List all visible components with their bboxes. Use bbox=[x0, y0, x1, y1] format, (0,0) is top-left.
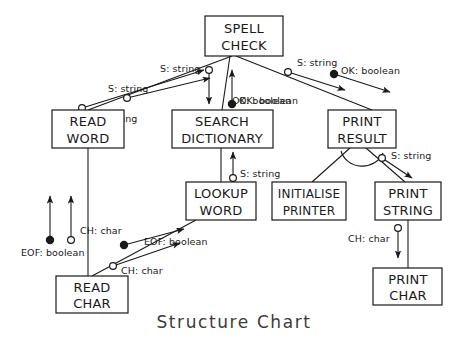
couple-label-c9: EOF: boolean bbox=[21, 247, 85, 258]
couple-label-c4-alt: OK: boolean bbox=[232, 95, 291, 106]
couple-marker-filled-c9 bbox=[46, 236, 53, 243]
module-search-dictionary[interactable]: SEARCH DICTIONARY bbox=[172, 110, 273, 148]
module-spell-check[interactable]: SPELL CHECK bbox=[205, 16, 283, 56]
module-label-print-result-line1: PRINT bbox=[342, 114, 381, 129]
couple-label-c3: S: string bbox=[160, 63, 200, 74]
couple-label-c11: EOF: boolean bbox=[144, 236, 208, 247]
couple-marker-hollow-c3 bbox=[206, 67, 213, 74]
couple-c8: S: string bbox=[379, 150, 432, 178]
module-print-char[interactable]: PRINT CHAR bbox=[373, 268, 442, 305]
module-label-spell-check-line1: SPELL bbox=[224, 21, 264, 36]
module-read-word[interactable]: READ WORD bbox=[52, 110, 124, 148]
module-lookup-word[interactable]: LOOKUP WORD bbox=[186, 182, 256, 220]
structure-chart-canvas: S: string S: string S: string OK: boolea… bbox=[0, 0, 468, 344]
couple-marker-filled-c6 bbox=[330, 70, 337, 77]
module-label-lookup-word-line1: LOOKUP bbox=[194, 186, 248, 201]
chart-title: Structure Chart bbox=[156, 312, 311, 332]
couple-marker-hollow-c12 bbox=[110, 263, 117, 270]
couple-label-c8: S: string bbox=[391, 150, 431, 161]
module-label-lookup-word-line2: WORD bbox=[200, 203, 243, 218]
module-label-initialise-printer-line2: PRINTER bbox=[283, 204, 336, 218]
couple-marker-hollow-c10 bbox=[68, 237, 75, 244]
couple-marker-hollow-c5 bbox=[285, 69, 292, 76]
module-label-print-result-line2: RESULT bbox=[337, 131, 387, 146]
couple-c6: OK: boolean bbox=[330, 65, 400, 92]
module-label-read-word-line2: WORD bbox=[67, 131, 110, 146]
couple-marker-hollow-c7 bbox=[230, 175, 237, 182]
couple-label-c10: CH: char bbox=[80, 225, 122, 236]
couple-marker-filled-c11 bbox=[120, 241, 127, 248]
module-initialise-printer[interactable]: INITIALISE PRINTER bbox=[272, 182, 346, 220]
structure-chart-svg: S: string S: string S: string OK: boolea… bbox=[0, 0, 468, 344]
couple-marker-hollow-c13 bbox=[395, 225, 402, 232]
module-print-result[interactable]: PRINT RESULT bbox=[328, 110, 396, 148]
module-label-print-char-line2: CHAR bbox=[389, 288, 427, 303]
couple-c9: EOF: boolean bbox=[21, 196, 85, 258]
couple-c2: S: string bbox=[108, 78, 210, 101]
couple-label-c2: S: string bbox=[108, 83, 148, 94]
module-label-print-char-line1: PRINT bbox=[388, 272, 427, 287]
couple-marker-hollow-c2 bbox=[124, 95, 131, 102]
module-label-read-char-line1: READ bbox=[74, 280, 111, 295]
couple-c10: CH: char bbox=[68, 196, 122, 243]
couple-c11: EOF: boolean bbox=[120, 229, 207, 249]
couple-c4-secondary-label: OK: boolean bbox=[232, 95, 291, 106]
couple-label-c6: OK: boolean bbox=[341, 65, 400, 76]
couple-c7: S: string bbox=[230, 152, 281, 181]
couple-label-c12: CH: char bbox=[121, 265, 163, 276]
couple-label-c5: S: string bbox=[297, 57, 337, 68]
module-label-print-string-line2: STRING bbox=[383, 203, 433, 218]
couple-marker-hollow-c8 bbox=[379, 155, 386, 162]
module-label-search-dictionary-line1: SEARCH bbox=[195, 114, 249, 129]
module-label-spell-check-line2: CHECK bbox=[221, 38, 267, 53]
module-read-char[interactable]: READ CHAR bbox=[56, 276, 128, 313]
couple-label-c7: S: string bbox=[240, 168, 280, 179]
module-label-print-string-line1: PRINT bbox=[388, 186, 427, 201]
couple-label-c13: CH: char bbox=[348, 233, 390, 244]
module-label-initialise-printer-line1: INITIALISE bbox=[278, 187, 341, 201]
selection-arc-print-result bbox=[341, 151, 383, 166]
couple-c13: CH: char bbox=[348, 225, 401, 258]
module-label-search-dictionary-line2: DICTIONARY bbox=[181, 131, 263, 146]
module-label-read-char-line2: CHAR bbox=[73, 296, 111, 311]
module-print-string[interactable]: PRINT STRING bbox=[375, 182, 441, 220]
module-label-read-word-line1: READ bbox=[70, 114, 107, 129]
line-print-result-to-initialise-printer bbox=[312, 148, 350, 182]
